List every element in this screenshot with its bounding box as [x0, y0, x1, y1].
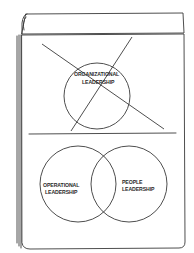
- operational-label-line2: LEADERSHIP: [45, 189, 78, 195]
- flip-chart-page: [22, 34, 185, 249]
- organizational-label-line1: ORGANIZATIONAL: [74, 71, 120, 77]
- people-label-line1: PEOPLE: [122, 179, 143, 185]
- organizational-label-line2: LEADERSHIP: [82, 79, 115, 85]
- cross-out-line-1: [42, 44, 164, 129]
- flip-chart-binding: [22, 13, 184, 34]
- panel-divider: [29, 133, 176, 134]
- operational-label-line1: OPERATIONAL: [43, 182, 80, 188]
- flip-chart-sketch: ORGANIZATIONAL LEADERSHIP OPERATIONAL LE…: [0, 0, 194, 253]
- people-label-line2: LEADERSHIP: [122, 186, 155, 192]
